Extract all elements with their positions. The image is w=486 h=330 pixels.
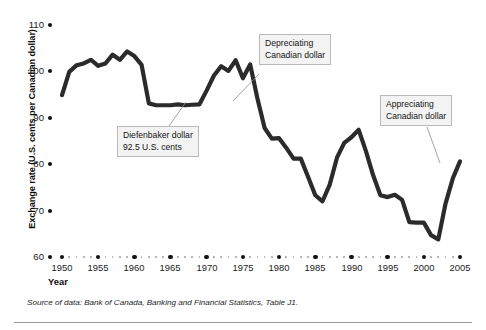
callout-depreciating-dollar: Depreciating Canadian dollar: [259, 34, 331, 65]
callout-diefenbaker-dollar: Diefenbaker dollar 92.5 U.S. cents: [117, 126, 199, 157]
callout-depreciating-line2: Canadian dollar: [265, 50, 325, 62]
leader-line-appreciating: [427, 127, 440, 163]
callout-appreciating-dollar: Appreciating Canadian dollar: [380, 95, 452, 126]
callout-depreciating-line1: Depreciating: [265, 38, 325, 50]
callout-diefenbaker-line2: 92.5 U.S. cents: [123, 142, 193, 154]
source-note: Source of data: Bank of Canada, Banking …: [27, 298, 298, 307]
chart-plot-area: [0, 0, 486, 330]
callout-appreciating-line1: Appreciating: [386, 99, 446, 111]
callout-appreciating-line2: Canadian dollar: [386, 111, 446, 123]
chart-figure: Exchange rate (U.S. cents per Canadian d…: [0, 0, 486, 330]
figure-bottom-rule: [14, 322, 472, 323]
callout-diefenbaker-line1: Diefenbaker dollar: [123, 130, 193, 142]
